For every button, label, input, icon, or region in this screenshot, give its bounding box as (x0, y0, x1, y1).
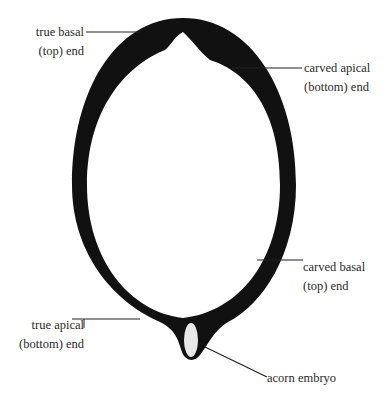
acorn-shell (72, 18, 296, 360)
leader-embryo (205, 347, 267, 377)
label-true-apical-line2: (bottom) end (5, 335, 84, 354)
label-carved-apical-line2: (bottom) end (304, 78, 370, 97)
label-carved-basal-line1: carved basal (303, 258, 365, 277)
label-carved-basal: carved basal (top) end (303, 258, 365, 296)
label-carved-basal-line2: (top) end (303, 277, 365, 296)
label-acorn-embryo-line1: acorn embryo (267, 369, 336, 388)
label-acorn-embryo: acorn embryo (267, 369, 336, 388)
acorn-embryo (184, 323, 198, 357)
label-true-basal-line2: (top) end (10, 42, 84, 61)
label-true-basal-line1: true basal (10, 23, 84, 42)
label-true-apical: true apical (bottom) end (5, 316, 84, 354)
label-true-basal: true basal (top) end (10, 23, 84, 61)
label-carved-apical-line1: carved apical (304, 59, 370, 78)
label-true-apical-line1: true apical (5, 316, 84, 335)
label-carved-apical: carved apical (bottom) end (304, 59, 370, 97)
